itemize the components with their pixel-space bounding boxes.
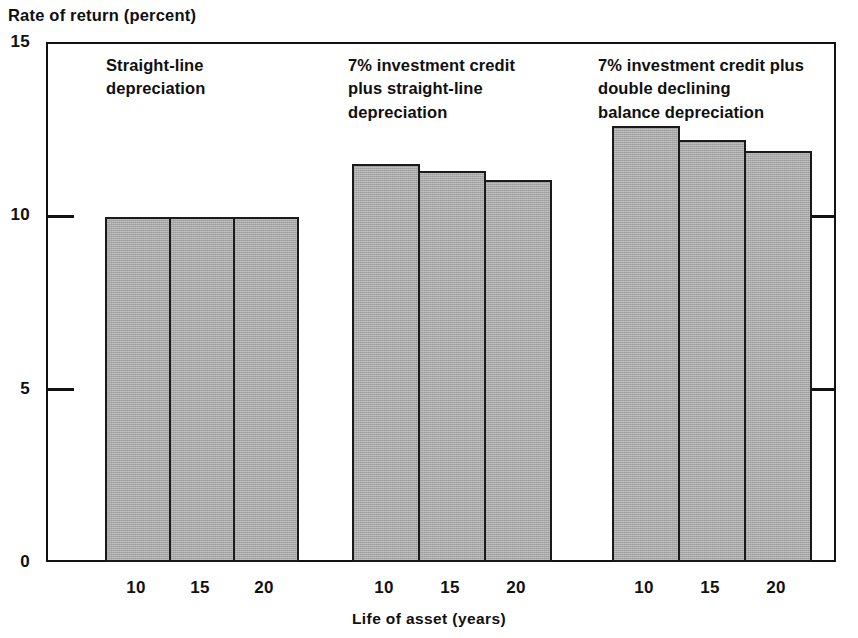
x-tick-label-g2-10: 10	[374, 578, 394, 598]
bar-group3-15[interactable]	[678, 140, 746, 562]
y-tick-mark-left-5	[48, 388, 74, 391]
y-tick-label-15: 15	[0, 32, 30, 52]
bar-group3-20[interactable]	[744, 151, 812, 562]
bar-group1-10[interactable]	[105, 217, 171, 562]
x-tick-label-g3-10: 10	[634, 578, 654, 598]
x-tick-label-g3-20: 20	[766, 578, 786, 598]
bar-group2-10[interactable]	[352, 164, 420, 562]
bar-group2-15[interactable]	[418, 171, 486, 562]
x-tick-label-g2-15: 15	[440, 578, 460, 598]
x-axis-title: Life of asset (years)	[0, 610, 858, 628]
x-tick-label-g1-10: 10	[126, 578, 146, 598]
group-caption-3: 7% investment credit plus double declini…	[598, 54, 804, 124]
x-tick-label-g2-20: 20	[506, 578, 526, 598]
bar-group1-20[interactable]	[233, 217, 299, 562]
x-tick-label-g1-20: 20	[254, 578, 274, 598]
x-tick-label-g3-15: 15	[700, 578, 720, 598]
group-caption-2: 7% investment credit plus straight-line …	[348, 54, 515, 124]
y-axis-title: Rate of return (percent)	[8, 6, 196, 25]
y-tick-label-0: 0	[0, 552, 30, 572]
y-tick-mark-left-10	[48, 215, 74, 218]
group-caption-1: Straight-line depreciation	[106, 54, 205, 101]
bar-group2-20[interactable]	[484, 180, 552, 562]
y-tick-label-10: 10	[0, 205, 30, 225]
y-tick-label-5: 5	[0, 379, 30, 399]
plot-area: Straight-line depreciation 7% investment…	[46, 42, 836, 562]
bar-group3-10[interactable]	[612, 126, 680, 562]
x-tick-label-g1-15: 15	[190, 578, 210, 598]
bar-group1-15[interactable]	[169, 217, 235, 562]
chart-figure: Rate of return (percent) 15 10 5 0 Strai…	[0, 0, 858, 638]
